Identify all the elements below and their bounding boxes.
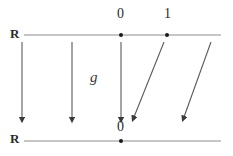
- bottom-axis-label: R: [10, 132, 19, 145]
- map-label-g: g: [90, 70, 98, 85]
- math-diagram: R R 0 1 0 g: [0, 0, 233, 156]
- top-tick-dot-1: [165, 33, 169, 37]
- slanted-arrow-1: [134, 42, 164, 117]
- top-axis-label: R: [10, 27, 19, 40]
- slanted-arrow-2: [184, 42, 211, 117]
- top-tick-label-1: 1: [164, 7, 171, 21]
- bottom-tick-dot-0: [119, 139, 123, 143]
- top-tick-label-0: 0: [117, 7, 124, 21]
- top-tick-dot-0: [119, 33, 123, 37]
- bottom-tick-label-0: 0: [117, 120, 124, 134]
